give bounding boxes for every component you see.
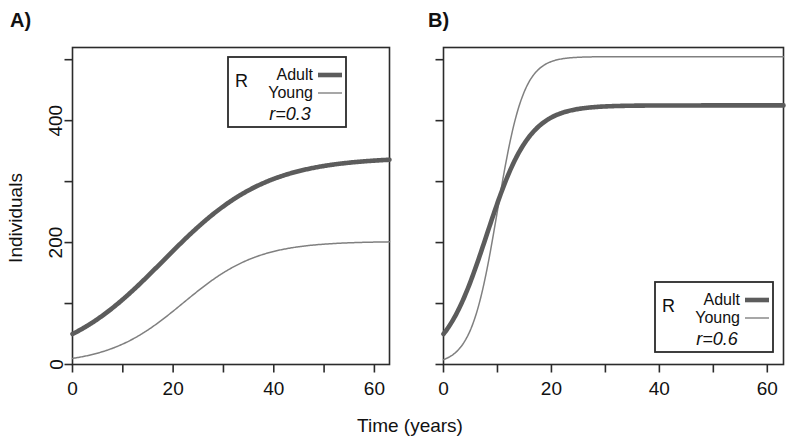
curve-adult-a	[73, 160, 390, 334]
x-tick-label: 60	[757, 378, 778, 399]
panel-label-a: A)	[10, 9, 31, 31]
y-axis-tick-labels-a: 0200400	[46, 105, 67, 370]
legend-young-label-b: Young	[695, 309, 740, 326]
y-axis-title: Individuals	[5, 173, 26, 263]
x-axis-tick-labels-b: 0204060	[438, 378, 778, 399]
legend-prefix-b: R	[662, 296, 675, 316]
y-axis-ticks-b	[436, 60, 444, 365]
legend-b: R Adult Young r=0.6	[655, 282, 773, 352]
legend-rate-b: r=0.6	[696, 329, 739, 349]
x-axis-ticks-a	[73, 365, 375, 373]
y-tick-label: 200	[46, 227, 67, 259]
legend-young-label-a: Young	[268, 84, 313, 101]
x-tick-label: 0	[438, 378, 449, 399]
x-tick-label: 0	[67, 378, 78, 399]
panel-a: 0200400 0204060 R Adult Young r=0.3	[46, 48, 390, 399]
y-tick-label: 0	[46, 359, 67, 370]
x-axis-ticks-b	[444, 365, 768, 373]
legend-rate-a: r=0.3	[269, 104, 311, 124]
legend-prefix-a: R	[235, 71, 248, 91]
x-tick-label: 40	[649, 378, 670, 399]
legend-a: R Adult Young r=0.3	[228, 57, 346, 127]
panel-b: 0204060 R Adult Young r=0.6	[436, 48, 784, 399]
legend-adult-label-a: Adult	[277, 66, 314, 83]
legend-adult-label-b: Adult	[704, 291, 741, 308]
two-panel-growth-figure: A) B) Individuals Time (years) 0200400 0…	[0, 0, 789, 439]
x-tick-label: 60	[364, 378, 385, 399]
x-tick-label: 20	[163, 378, 184, 399]
x-tick-label: 20	[541, 378, 562, 399]
x-axis-tick-labels-a: 0204060	[67, 378, 385, 399]
y-tick-label: 400	[46, 105, 67, 137]
panel-label-b: B)	[428, 9, 449, 31]
x-axis-title: Time (years)	[357, 415, 463, 436]
x-tick-label: 40	[263, 378, 284, 399]
